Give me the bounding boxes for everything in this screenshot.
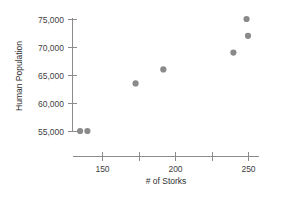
scatter-chart: 55,00060,00065,00070,00075,000 Human Pop… [0,0,284,200]
data-point [77,128,83,134]
x-axis-group: 150200250 # of Storks [73,152,260,186]
y-axis-group: 55,00060,00065,00070,00075,000 Human Pop… [14,15,77,137]
data-points-group [77,16,251,134]
y-tick-label: 75,000 [38,15,64,25]
data-point [160,66,166,72]
x-tick-labels: 150200250 [95,164,255,174]
data-point [245,33,251,39]
chart-canvas: 55,00060,00065,00070,00075,000 Human Pop… [0,0,284,200]
y-tick-label: 65,000 [38,71,64,81]
y-tick-labels: 55,00060,00065,00070,00075,000 [38,15,64,137]
y-tick-label: 70,000 [38,43,64,53]
x-axis-title: # of Storks [146,176,187,186]
data-point [132,80,138,86]
y-tick-label: 55,000 [38,127,64,137]
data-point [243,16,249,22]
x-tick-label: 250 [241,164,255,174]
x-tick-label: 200 [168,164,182,174]
y-tick-label: 60,000 [38,99,64,109]
data-point [84,128,90,134]
data-point [230,50,236,56]
y-axis-title: Human Population [14,41,24,111]
x-tick-label: 150 [95,164,109,174]
